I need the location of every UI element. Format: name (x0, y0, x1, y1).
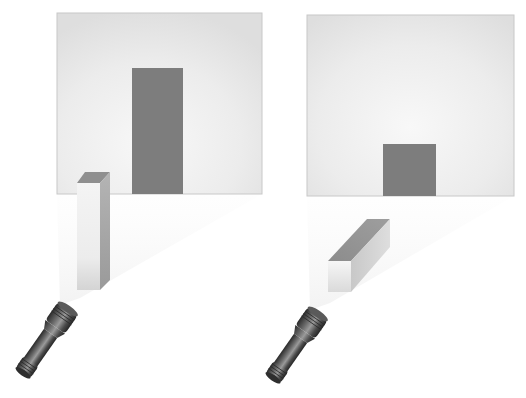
flashlight-icon (262, 304, 330, 387)
block-front-face (77, 183, 100, 290)
tall-shadow (132, 68, 183, 194)
shadow-diagram: Two flashlight-shadow illustrations: a v… (0, 0, 526, 398)
block-front-face (328, 261, 351, 292)
right-illustration (262, 15, 514, 387)
short-shadow (383, 144, 436, 196)
upright-block (77, 172, 110, 290)
flashlight-icon (12, 299, 80, 382)
diagram-canvas (0, 0, 526, 398)
block-side-face (100, 172, 110, 290)
left-illustration (12, 13, 262, 382)
